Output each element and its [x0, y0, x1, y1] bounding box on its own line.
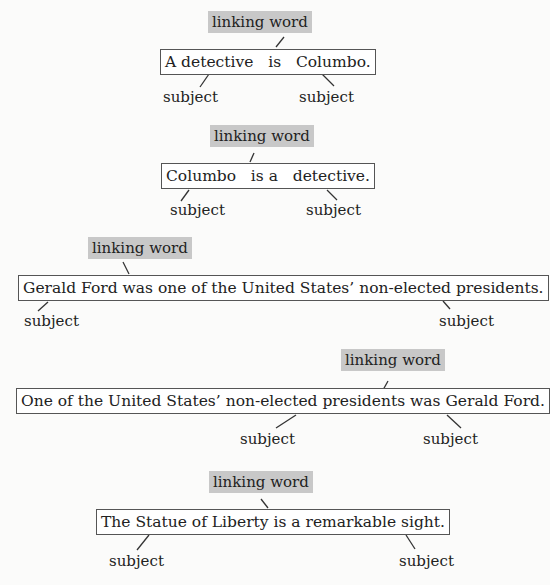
- subject-label-left: subject: [24, 312, 79, 330]
- subject-label-left: subject: [170, 201, 225, 219]
- sentence-box: A detective is Columbo.: [160, 49, 376, 75]
- subject-label-left: subject: [240, 430, 295, 448]
- subject-label-right: subject: [439, 312, 494, 330]
- subject-label-right: subject: [299, 88, 354, 106]
- subject-label-right: subject: [306, 201, 361, 219]
- linking-word-label: linking word: [88, 237, 192, 259]
- subject-label-left: subject: [163, 88, 218, 106]
- sentence-box: Columbo is a detective.: [161, 163, 375, 189]
- linking-word-label: linking word: [208, 11, 312, 33]
- linking-word-label: linking word: [341, 349, 445, 371]
- sentence-box: One of the United States’ non-elected pr…: [16, 388, 550, 414]
- subject-label-right: subject: [399, 552, 454, 570]
- linking-word-label: linking word: [210, 125, 314, 147]
- subject-label-left: subject: [109, 552, 164, 570]
- sentence-box: Gerald Ford was one of the United States…: [18, 275, 549, 301]
- sentence-box: The Statue of Liberty is a remarkable si…: [96, 509, 450, 535]
- linking-word-label: linking word: [209, 471, 313, 493]
- subject-label-right: subject: [423, 430, 478, 448]
